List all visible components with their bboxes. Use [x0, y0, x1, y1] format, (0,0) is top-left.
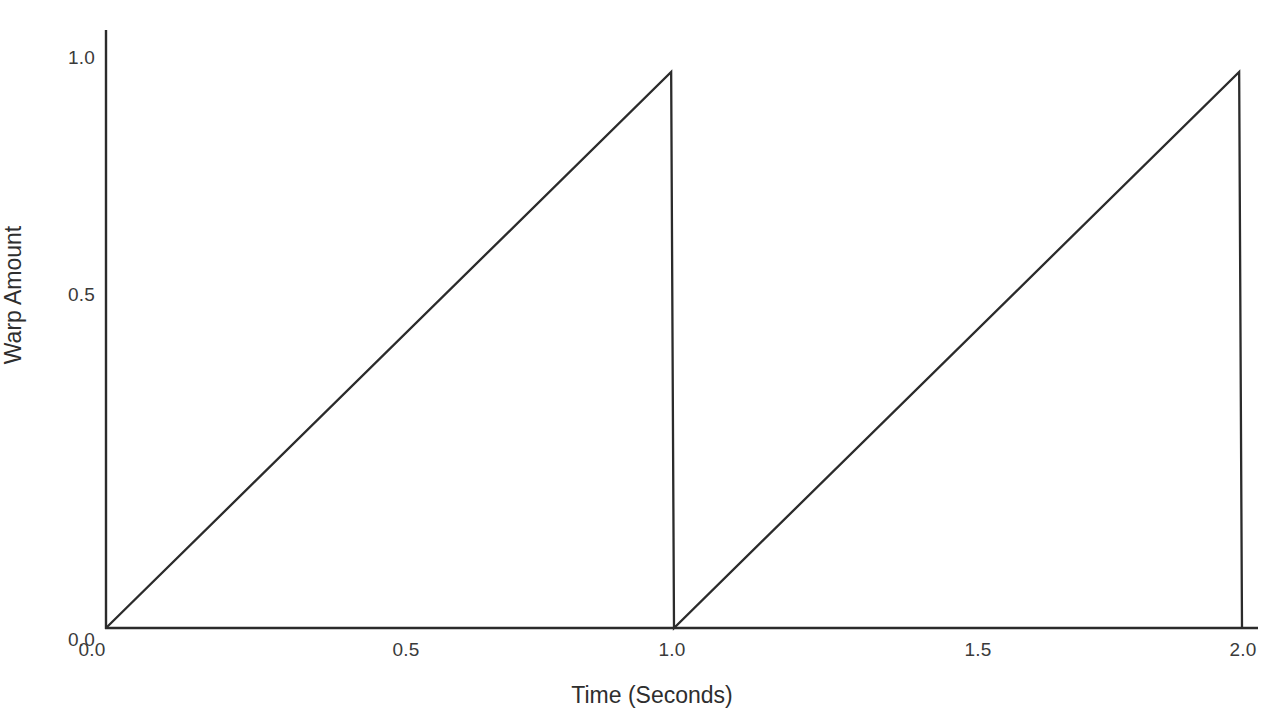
x-tick-label-4: 2.0	[1229, 639, 1256, 661]
y-tick-label-1.0: 1.0	[68, 47, 95, 69]
x-tick-label-3: 1.5	[964, 639, 991, 661]
x-tick-label-1: 0.5	[392, 639, 419, 661]
sawtooth-plot-svg	[0, 0, 1282, 723]
x-tick-label-2: 1.0	[658, 639, 685, 661]
y-tick-label-0.0: 0.0	[68, 629, 95, 651]
y-axis-title: Warp Amount	[0, 226, 27, 364]
sawtooth-waveform-line	[106, 72, 1242, 628]
x-axis-title: Time (Seconds)	[11, 682, 1282, 709]
y-tick-label-0.5: 0.5	[68, 284, 95, 306]
chart-figure: 0.0 0.5 1.0 1.5 2.0 1.0 0.5 0.0 Time (Se…	[0, 0, 1282, 723]
